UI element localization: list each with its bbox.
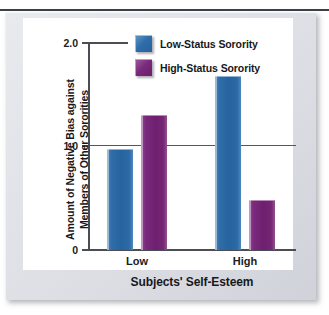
bar-face [107,149,133,250]
bar-high-high-status [249,200,275,250]
figure-panel: 2.0 1.0 0 Amount of Negative Bias agains… [0,0,329,315]
bar-face [249,200,275,250]
legend-label-high-status: High-Status Sorority [160,62,260,74]
x-axis-title: Subjects' Self-Esteem [88,275,296,289]
y-axis-title: Amount of Negative Bias against Members … [64,55,91,265]
y-axis-title-line1: Amount of Negative Bias against [64,79,76,240]
bar-highlight [141,115,143,250]
x-tick-label-low: Low [107,256,167,267]
y-axis-title-line2: Members of Other Sororities [77,55,91,265]
header-divider [0,9,329,11]
y-tick-label-2: 2.0 [50,38,78,49]
legend-item-high-status: High-Status Sorority [135,57,260,78]
bar-highlight [249,200,251,250]
bar-low-low-status [107,149,133,250]
y-tick-mark-2 [82,42,89,44]
legend-swatch-icon-high-status [135,59,152,76]
y-gridline-1 [90,145,296,146]
legend-item-low-status: Low-Status Sorority [135,33,260,54]
bar-face [215,76,241,250]
bar-low-high-status [141,115,167,250]
legend-swatch-icon-low-status [135,35,152,52]
bar-highlight [107,149,109,250]
legend-label-low-status: Low-Status Sorority [160,38,258,50]
cut-off-header-text [6,0,322,8]
bar-high-low-status [215,76,241,250]
bar-highlight [215,76,217,250]
y-rule-2 [90,42,128,44]
legend: Low-Status Sorority High-Status Sorority [135,33,260,81]
bar-face [141,115,167,250]
x-tick-label-high: High [215,256,275,267]
